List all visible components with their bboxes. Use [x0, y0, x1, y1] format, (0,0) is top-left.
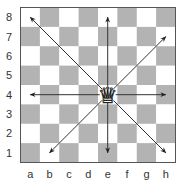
square-d6 [79, 46, 99, 66]
square-f2 [117, 124, 137, 144]
square-g3 [137, 104, 157, 124]
file-label-a: a [27, 168, 34, 180]
chess-diagram: 87654321 abcdefgh ♕ [0, 0, 179, 192]
square-a7 [21, 27, 41, 47]
square-b8 [40, 8, 60, 28]
square-a3 [21, 104, 41, 124]
square-f7 [117, 27, 137, 47]
square-c7 [59, 27, 79, 47]
square-a5 [21, 66, 41, 86]
queen-icon: ♕ [98, 83, 118, 108]
square-c8 [59, 8, 79, 28]
square-h8 [156, 8, 176, 28]
square-d7 [79, 27, 99, 47]
square-b6 [40, 46, 60, 66]
square-c1 [59, 143, 79, 163]
square-d2 [79, 124, 99, 144]
rank-label-3: 3 [6, 108, 12, 120]
file-label-h: h [163, 168, 169, 180]
square-a6 [21, 46, 41, 66]
file-label-d: d [85, 168, 91, 180]
square-h2 [156, 124, 176, 144]
rank-label-4: 4 [6, 89, 12, 101]
square-d8 [79, 8, 99, 28]
square-h6 [156, 46, 176, 66]
square-f6 [117, 46, 137, 66]
square-d1 [79, 143, 99, 163]
rank-label-7: 7 [6, 31, 12, 43]
square-f8 [117, 8, 137, 28]
square-h3 [156, 104, 176, 124]
square-g5 [137, 66, 157, 86]
square-a1 [21, 143, 41, 163]
rank-labels: 87654321 [6, 11, 12, 159]
file-label-b: b [47, 168, 53, 180]
file-label-f: f [126, 168, 130, 180]
square-b5 [40, 66, 60, 86]
file-label-c: c [66, 168, 72, 180]
file-labels: abcdefgh [27, 168, 169, 180]
rank-label-6: 6 [6, 50, 12, 62]
square-c5 [59, 66, 79, 86]
square-g7 [137, 27, 157, 47]
rank-label-2: 2 [6, 127, 12, 139]
square-g1 [137, 143, 157, 163]
square-b3 [40, 104, 60, 124]
square-a2 [21, 124, 41, 144]
square-f1 [117, 143, 137, 163]
square-c3 [59, 104, 79, 124]
rank-label-8: 8 [6, 11, 12, 23]
square-g8 [137, 8, 157, 28]
file-label-g: g [143, 168, 149, 180]
square-h5 [156, 66, 176, 86]
square-b2 [40, 124, 60, 144]
file-label-e: e [105, 168, 111, 180]
rank-label-5: 5 [6, 69, 12, 81]
rank-label-1: 1 [6, 147, 12, 159]
